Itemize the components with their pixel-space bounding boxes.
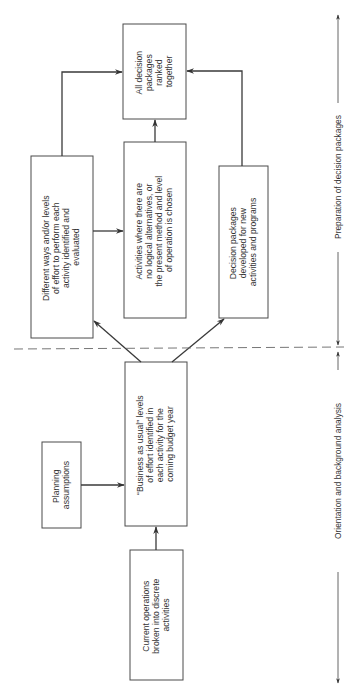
node-no-alternatives: Activities where there are no logical al… [124, 142, 186, 318]
node-planning-text: Planning assumptions [51, 461, 71, 509]
zbb-flow-diagram: All decision packages ranked together Di… [0, 0, 358, 697]
phase-preparation-label: Preparation of decision packages [333, 115, 343, 239]
node-new-programs: Decision packages developed for new acti… [219, 166, 268, 318]
edge-new-programs-to-ranked [187, 71, 242, 166]
node-business-as-usual-text: “Business as usual” levels of effort ide… [135, 393, 175, 495]
edge-alternatives-to-ranked [62, 72, 122, 156]
node-no-alternatives-text: Activities where there are no logical al… [134, 173, 174, 286]
node-alternatives: Different ways and/or levels of effort t… [31, 156, 93, 338]
node-ranked: All decision packages ranked together [123, 24, 186, 119]
node-business-as-usual: “Business as usual” levels of effort ide… [125, 362, 187, 526]
node-current-ops: Current operations broken into discrete … [130, 550, 183, 680]
phase-divider [14, 347, 344, 349]
phase-orientation-label: Orientation and background analysis [333, 403, 343, 539]
phase-orientation: Orientation and background analysis [333, 352, 343, 683]
phase-preparation: Preparation of decision packages [333, 15, 343, 345]
node-new-programs-text: Decision packages developed for new acti… [228, 198, 258, 286]
edge-business-to-alternatives [94, 321, 141, 362]
edge-business-to-new-programs [172, 319, 224, 362]
node-planning: Planning assumptions [42, 442, 81, 528]
